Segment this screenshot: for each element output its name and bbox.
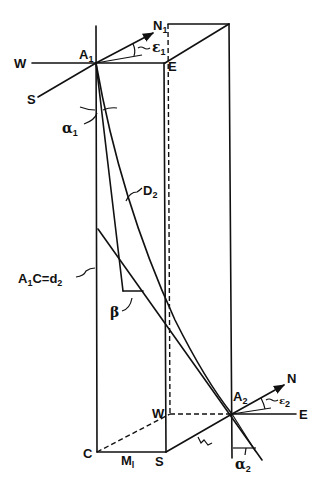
label-south-top: S: [27, 92, 36, 107]
label-west-top: W: [14, 56, 27, 71]
label-north-top: N1: [153, 18, 167, 35]
alpha1-leader: [84, 113, 97, 124]
box-outline: [32, 24, 232, 458]
epsilon1-arc: [133, 44, 135, 56]
beta-leader: [122, 298, 132, 311]
label-d2: D2: [143, 183, 157, 200]
tangent-line: [98, 229, 262, 460]
label-alpha2: α2: [235, 456, 251, 474]
label-east-bottom: E: [299, 407, 308, 422]
epsilon2-arc: [261, 398, 265, 409]
curve-extension: [232, 414, 256, 452]
bottom-right-diagonal: [166, 414, 232, 452]
hidden-vertical-edge: [168, 24, 170, 414]
l1-marker: [198, 437, 212, 445]
label-epsilon1: ε1: [152, 39, 166, 57]
alpha1-marker: [80, 107, 117, 124]
label-east-top: E: [168, 59, 177, 74]
front-left-edge: [96, 26, 97, 452]
label-c: C: [83, 446, 93, 461]
label-s-bottom: S: [155, 454, 164, 469]
south-line: [38, 63, 96, 97]
label-a1c-equals-d2: A1C=d2: [18, 271, 62, 288]
back-right-edge: [229, 24, 232, 458]
initial-direction-line: [96, 63, 123, 291]
label-epsilon2: ε2: [279, 395, 290, 409]
alpha1-arc-left: [80, 107, 95, 110]
label-a1: A1: [79, 47, 93, 64]
label-a2: A2: [233, 389, 247, 406]
label-alpha1: α1: [62, 120, 78, 138]
label-beta: β: [110, 304, 119, 320]
top-right-diagonal: [165, 24, 229, 63]
alpha2-tick: [245, 448, 246, 455]
a1c-leader: [76, 268, 95, 277]
epsilon1-leader: [138, 47, 150, 49]
epsilon2-leader: [266, 399, 278, 401]
borehole-geometry-diagram: W S N1 E A1 ε1 α1 D2 A1C=d2 β C Ml S W A…: [0, 0, 320, 494]
front-right-edge: [164, 63, 166, 452]
label-north-bottom: N: [287, 371, 296, 386]
label-m: Ml: [121, 453, 134, 470]
label-w-bottom: W: [152, 406, 165, 421]
